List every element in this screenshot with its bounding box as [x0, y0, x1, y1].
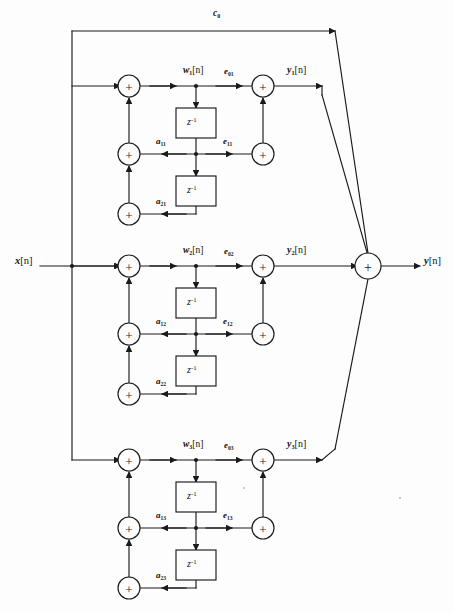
label-y2: y2[n]: [287, 244, 306, 256]
svg-text:+: +: [259, 80, 266, 95]
label-e03: e03: [224, 440, 234, 451]
scan-speck: [243, 487, 245, 489]
svg-text:+: +: [259, 454, 266, 469]
delay-label-s2-d2: z-1: [187, 364, 197, 375]
label-a12: a12: [156, 316, 166, 327]
label-a22: a22: [156, 376, 166, 387]
delay-label-s2-d1: z-1: [187, 296, 197, 307]
label-a23: a23: [156, 570, 166, 581]
svg-text:+: +: [259, 328, 266, 343]
svg-text:+: +: [364, 260, 372, 275]
svg-text:+: +: [125, 388, 132, 403]
label-output-yn: y[n]: [424, 255, 441, 266]
svg-text:+: +: [259, 260, 266, 275]
svg-text:+: +: [125, 328, 132, 343]
svg-text:+: +: [125, 208, 132, 223]
section-1-wires: [72, 86, 368, 256]
svg-text:+: +: [125, 522, 132, 537]
label-y1: y1[n]: [287, 64, 306, 76]
label-e13: e13: [223, 510, 233, 521]
label-e11: e11: [223, 136, 232, 147]
diagram-canvas: +++ ++ +++ ++ +++ ++ + c0 x[n] y[n] w1[n…: [0, 0, 453, 613]
label-a13: a13: [156, 510, 166, 521]
input-bus: [40, 31, 120, 460]
svg-text:+: +: [125, 260, 132, 275]
svg-text:+: +: [125, 454, 132, 469]
label-e12: e12: [223, 316, 233, 327]
label-e01: e01: [224, 66, 234, 77]
label-w3: w3[n]: [183, 439, 203, 450]
label-c0: c0: [213, 8, 220, 19]
svg-text:+: +: [125, 80, 132, 95]
svg-text:+: +: [259, 148, 266, 163]
svg-text:+: +: [125, 148, 132, 163]
label-w2: w2[n]: [183, 245, 203, 256]
delay-label-s1-d1: z-1: [187, 116, 197, 127]
label-a11: a11: [156, 136, 166, 147]
label-a21: a21: [156, 196, 166, 207]
delay-label-s3-d2: z-1: [187, 558, 197, 569]
label-y3: y3[n]: [287, 438, 306, 450]
scan-speck: [399, 497, 401, 499]
c0-feedforward-path: [72, 31, 368, 253]
label-e02: e02: [224, 246, 234, 257]
delay-label-s3-d1: z-1: [187, 490, 197, 501]
svg-text:+: +: [259, 522, 266, 537]
signal-flow-graph: +++ ++ +++ ++ +++ ++ +: [0, 0, 453, 613]
label-w1: w1[n]: [183, 65, 203, 76]
delay-label-s1-d2: z-1: [187, 184, 197, 195]
label-input-xn: x[n]: [15, 255, 33, 266]
section-3-wires: [72, 279, 368, 588]
svg-text:+: +: [125, 582, 132, 597]
